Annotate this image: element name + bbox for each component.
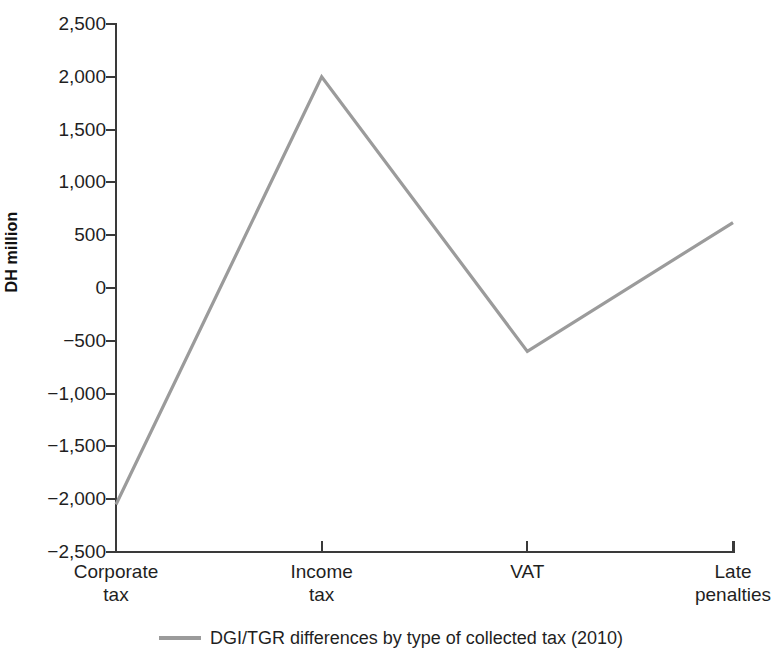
series-line: [116, 77, 733, 505]
line-chart: DH million 2,5002,0001,5001,0005000−500−…: [0, 0, 782, 657]
legend-color-swatch: [159, 636, 201, 640]
series-line-layer: [0, 0, 782, 657]
legend-label: DGI/TGR differences by type of collected…: [210, 628, 623, 648]
chart-legend: DGI/TGR differences by type of collected…: [0, 628, 782, 648]
